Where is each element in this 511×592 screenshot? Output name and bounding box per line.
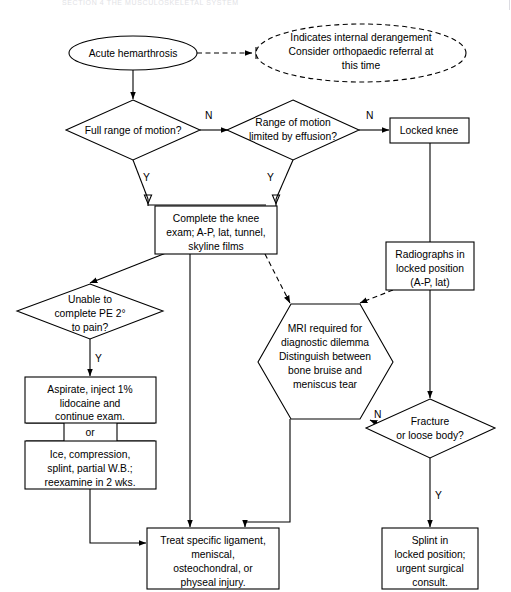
node-aspirate-inject[interactable]: Aspirate, inject 1% lidocaine and contin… [25, 377, 156, 423]
node-label-knee-exam-line1: Complete the knee [173, 213, 260, 224]
node-label-ice-line3: reexamine in 2 wks. [45, 477, 136, 488]
node-mri-required[interactable]: MRI required for diagnostic dilemma Dist… [258, 304, 393, 419]
node-acute-hemarthrosis[interactable]: Acute hemarthrosis [69, 36, 197, 70]
node-label-derangement-line2: Consider orthopaedic referral at [289, 46, 434, 57]
node-label-aspirate-line2: lidocaine and [60, 398, 121, 409]
node-label-ice-line1: Ice, compression, [50, 449, 131, 460]
branch-label-n-3: N [374, 409, 381, 420]
node-label-derangement-line1: Indicates internal derangement [290, 32, 432, 43]
node-label-radiographs-line1: Radiographs in [395, 249, 465, 260]
node-label-locked-knee: Locked knee [400, 125, 459, 136]
edge-frm-to-rom-effusion: N [200, 110, 228, 130]
node-locked-knee[interactable]: Locked knee [390, 118, 469, 143]
node-label-effusion-line2: limited by effusion? [249, 131, 337, 142]
edge-aspirate-or-ice: or [26, 423, 155, 441]
node-label-splint-line3: urgent surgical [396, 563, 464, 574]
node-label-splint-line1: Splint in [412, 535, 449, 546]
node-label-unable-pe-line1: Unable to [68, 294, 112, 305]
branch-label-y-2: Y [267, 172, 274, 183]
edge-frm-to-knee-exam: Y [133, 160, 266, 206]
node-indicates-internal-derangement[interactable]: Indicates internal derangement Consider … [256, 24, 466, 82]
node-splint-locked-position[interactable]: Splint in locked position; urgent surgic… [382, 528, 478, 589]
node-full-range-of-motion[interactable]: Full range of motion? [66, 100, 200, 160]
node-label-fracture-line2: or loose body? [396, 430, 464, 441]
node-label-splint-line4: consult. [412, 577, 448, 588]
edge-knee-exam-to-mri [265, 254, 290, 303]
branch-label-y-3: Y [95, 353, 102, 364]
node-label-treat-line4: physeal injury. [180, 577, 245, 588]
branch-label-n-2: N [366, 110, 373, 121]
node-label-mri-line5: meniscus tear [293, 379, 358, 390]
node-treat-specific-injury[interactable]: Treat specific ligament, meniscal, osteo… [147, 528, 279, 589]
edge-rom-to-knee-exam: Y [267, 160, 293, 206]
edge-fracture-to-splint: Y [430, 458, 442, 527]
node-label-mri-line1: MRI required for [288, 323, 363, 334]
node-fracture-or-loose-body[interactable]: Fracture or loose body? [366, 399, 495, 458]
branch-label-n-1: N [205, 110, 212, 121]
node-label-treat-line3: osteochondral, or [173, 563, 253, 574]
flowchart-svg: N Y N Y Y [0, 0, 511, 592]
edge-radiographs-to-mri [360, 290, 393, 303]
node-radiographs-locked-position[interactable]: Radiographs in locked position (A-P, lat… [386, 242, 474, 290]
node-label-mri-line4: bone bruise and [288, 365, 362, 376]
node-label-knee-exam-line2: exam; A-P, lat, tunnel, [166, 227, 265, 238]
edge-ice-to-treat [90, 489, 146, 543]
node-label-treat-line2: meniscal, [191, 549, 235, 560]
node-label-acute-hemarthrosis: Acute hemarthrosis [89, 48, 178, 59]
node-range-limited-by-effusion[interactable]: Range of motion limited by effusion? [227, 100, 359, 160]
edge-unable-pe-to-aspirate: Y [90, 339, 102, 376]
edge-hemarthrosis-to-derangement [197, 47, 256, 59]
node-complete-knee-exam[interactable]: Complete the knee exam; A-P, lat, tunnel… [155, 206, 277, 254]
edge-mri-to-treat [245, 419, 290, 527]
node-label-derangement-line3: this time [342, 60, 381, 71]
node-label-mri-line3: Distinguish between [279, 351, 371, 362]
edge-knee-exam-to-unable-pe [90, 253, 166, 283]
branch-label-y-4: Y [435, 490, 442, 501]
node-label-full-range-of-motion: Full range of motion? [85, 125, 182, 136]
node-label-effusion-line1: Range of motion [255, 117, 331, 128]
node-label-mri-line2: diagnostic dilemma [281, 337, 369, 348]
edge-rom-to-locked-knee: N [359, 110, 389, 130]
flowchart-canvas: N Y N Y Y [0, 0, 511, 592]
node-ice-compression[interactable]: Ice, compression, splint, partial W.B.; … [25, 441, 156, 489]
node-label-radiographs-line2: locked position [396, 263, 464, 274]
node-label-radiographs-line3: (A-P, lat) [410, 277, 449, 288]
or-label: or [85, 427, 95, 438]
node-label-fracture-line1: Fracture [411, 416, 450, 427]
node-unable-to-complete-pe[interactable]: Unable to complete PE 2° to pain? [17, 284, 163, 339]
node-label-ice-line2: splint, partial W.B.; [47, 463, 132, 474]
node-label-unable-pe-line3: to pain? [72, 322, 109, 333]
branch-label-y-1: Y [143, 172, 150, 183]
node-label-aspirate-line3: continue exam. [55, 411, 125, 422]
node-label-knee-exam-line3: skyline films [188, 241, 244, 252]
node-label-aspirate-line1: Aspirate, inject 1% [47, 384, 132, 395]
node-label-unable-pe-line2: complete PE 2° [54, 308, 125, 319]
node-label-treat-line1: Treat specific ligament, [160, 535, 266, 546]
node-label-splint-line2: locked position; [395, 549, 466, 560]
